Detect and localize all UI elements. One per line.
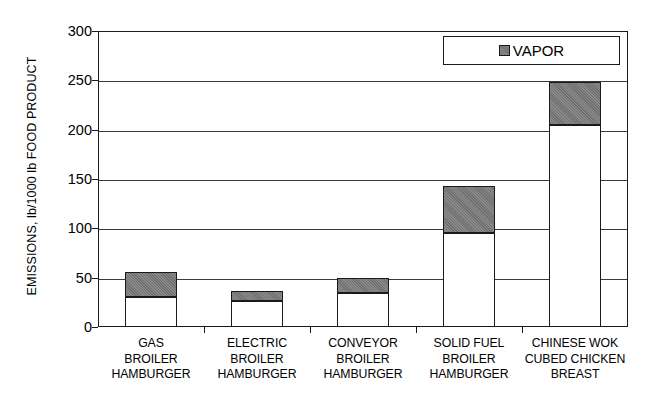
x-axis-label-line: HAMBURGER (310, 367, 416, 383)
x-axis-label-line: GAS (98, 336, 204, 352)
chart-legend: VAPOR (443, 36, 620, 65)
x-axis-label-line: ELECTRIC (204, 336, 310, 352)
x-axis-tick-marks (98, 327, 628, 334)
x-axis-tick-mark (416, 327, 417, 333)
x-axis-label-1: GASBROILERHAMBURGER (98, 336, 204, 396)
gridline (99, 180, 627, 181)
x-axis-label-2: ELECTRICBROILERHAMBURGER (204, 336, 310, 396)
x-axis-label-line: BREAST (522, 367, 628, 383)
x-axis-label-line: BROILER (310, 352, 416, 368)
x-axis-label-line: CONVEYOR (310, 336, 416, 352)
gridline (99, 131, 627, 132)
x-axis-label-line: CHINESE WOK (522, 336, 628, 352)
gridline (99, 279, 627, 280)
x-axis-label-line: BROILER (98, 352, 204, 368)
x-axis-label-3: CONVEYORBROILERHAMBURGER (310, 336, 416, 396)
y-axis-tick-marks (0, 31, 98, 327)
gridline (99, 229, 627, 230)
plot-area (98, 31, 628, 327)
x-axis-label-line: HAMBURGER (98, 367, 204, 383)
x-axis-label-line: BROILER (416, 352, 522, 368)
x-axis-tick-mark (310, 327, 311, 333)
x-axis-tick-mark (522, 327, 523, 333)
gridline (99, 81, 627, 82)
x-axis-label-line: BROILER (204, 352, 310, 368)
x-axis-label-line: CUBED CHICKEN (522, 352, 628, 368)
x-axis-tick-mark (204, 327, 205, 333)
x-axis-label-line: HAMBURGER (416, 367, 522, 383)
legend-label-vapor: VAPOR (513, 43, 564, 58)
x-axis-label-5: CHINESE WOKCUBED CHICKENBREAST (522, 336, 628, 396)
emissions-bar-chart: EMISSIONS, lb/1000 lb FOOD PRODUCT 05010… (0, 0, 649, 411)
legend-swatch-vapor-icon (499, 45, 510, 56)
x-axis-label-line: SOLID FUEL (416, 336, 522, 352)
x-axis-category-labels: GASBROILERHAMBURGERELECTRICBROILERHAMBUR… (98, 336, 628, 396)
x-axis-label-line: HAMBURGER (204, 367, 310, 383)
x-axis-label-4: SOLID FUELBROILERHAMBURGER (416, 336, 522, 396)
